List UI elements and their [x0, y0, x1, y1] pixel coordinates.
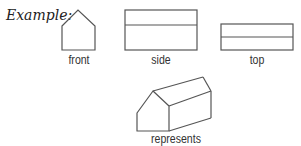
orthographic-diagram [0, 0, 301, 146]
side-view-shape [125, 10, 197, 50]
side-caption: side [143, 53, 178, 67]
top-caption: top [239, 53, 274, 67]
front-view-shape [62, 10, 95, 50]
represents-caption: represents [144, 132, 207, 146]
top-view-shape [221, 24, 293, 50]
front-caption: front [61, 53, 98, 67]
house-3d-shape [137, 77, 211, 131]
